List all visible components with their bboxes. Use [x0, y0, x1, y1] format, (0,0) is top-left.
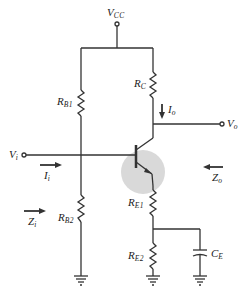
- vi-terminal: [22, 153, 26, 157]
- ground-icon-rb2: [74, 276, 88, 285]
- zo-arrow-icon: [203, 164, 223, 170]
- label-ii: Ii: [44, 170, 50, 183]
- zi-arrow-icon: [24, 208, 46, 214]
- label-vi: Vi: [9, 149, 18, 162]
- ground-icon-ce: [193, 276, 207, 285]
- re2-resistor: [150, 243, 156, 269]
- circuit-schematic: [0, 0, 247, 295]
- re1-resistor: [150, 190, 156, 216]
- transistor-highlight: [121, 150, 165, 194]
- label-rb1: RB1: [57, 96, 73, 109]
- label-re2: RE2: [128, 250, 144, 263]
- rb2-resistor: [78, 195, 84, 222]
- rb1-resistor: [78, 90, 84, 116]
- ii-arrow-icon: [40, 162, 62, 168]
- label-ce: CE: [211, 248, 223, 261]
- label-zi: Zi: [28, 216, 37, 229]
- io-arrow-icon: [159, 104, 165, 119]
- label-vcc: VCC: [107, 7, 125, 20]
- label-re1: RE1: [128, 197, 144, 210]
- vcc-terminal: [115, 22, 119, 26]
- rc-resistor: [150, 72, 156, 98]
- label-vo: Vo: [227, 118, 238, 131]
- vo-terminal: [220, 122, 224, 126]
- label-io: Io: [168, 104, 176, 117]
- label-rc: RC: [134, 78, 146, 91]
- label-rb2: RB2: [58, 212, 74, 225]
- label-zo: Zo: [212, 172, 222, 185]
- ground-icon-re2: [146, 276, 160, 285]
